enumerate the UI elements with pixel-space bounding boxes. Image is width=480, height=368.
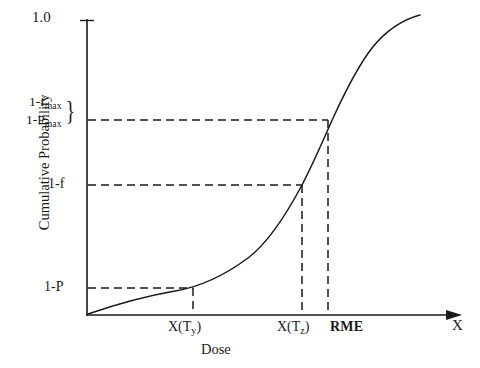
y-tick-label-1.0: 1.0 <box>32 10 51 25</box>
x-axis-title: Dose <box>201 342 231 357</box>
curly-brace-icon: } <box>65 101 74 122</box>
chart-figure: 1.0 1-fmax 1-Pmax } 1-f 1-P Cumulative P… <box>0 0 480 368</box>
x-axis-variable-label: X <box>452 318 463 333</box>
cumulative-probability-curve <box>88 15 420 314</box>
x-tick-label-tz: X(Tz) <box>277 320 309 336</box>
x-tick-label-rme: RME <box>330 320 363 334</box>
y-tick-label-p: 1-P <box>44 280 63 294</box>
y-axis-title: Cumulative Probability <box>37 62 52 262</box>
chart-canvas <box>0 0 480 368</box>
x-tick-label-ty: X(Ty) <box>168 320 201 336</box>
